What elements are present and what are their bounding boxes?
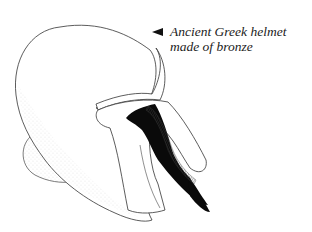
left-arrow-pointer-icon [152,28,163,36]
caption-line-2: made of bronze [170,39,286,54]
caption-line-1: Ancient Greek helmet [170,24,286,39]
caption: Ancient Greek helmet made of bronze [170,24,286,54]
